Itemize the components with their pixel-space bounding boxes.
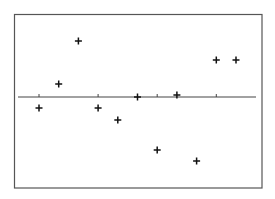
plot-frame [15,15,263,189]
residual-scatter-plot [0,0,275,199]
plus-marker-icon [36,105,43,112]
plus-marker-icon [134,94,141,101]
data-points [36,38,240,165]
plus-marker-icon [233,57,240,64]
plus-marker-icon [193,158,200,165]
plus-marker-icon [75,38,82,45]
plus-marker-icon [95,105,102,112]
plus-marker-icon [213,57,220,64]
plus-marker-icon [154,147,161,154]
plus-marker-icon [55,81,62,88]
plus-marker-icon [114,117,121,124]
